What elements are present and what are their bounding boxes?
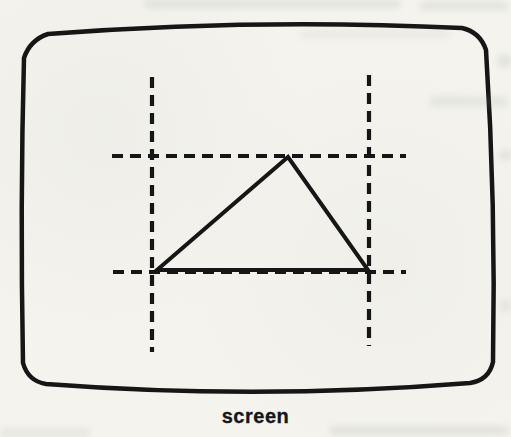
triangle [157,157,368,270]
crt-screen-figure [22,24,494,392]
screen-outline [22,24,494,392]
scanned-page: screen [0,0,511,437]
figure-caption: screen [0,405,511,428]
figure-canvas [0,0,511,437]
